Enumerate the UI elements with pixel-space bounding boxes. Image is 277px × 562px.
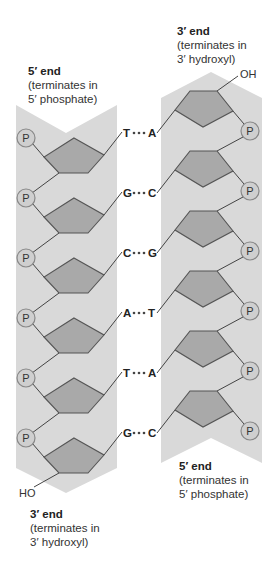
phosphate-label: P: [246, 365, 253, 377]
phosphate-label: P: [22, 312, 29, 324]
right-top-title: 3′ end: [177, 24, 247, 38]
left-bottom-title: 3′ end: [30, 507, 100, 521]
right-top-line2: 3′ hydroxyl): [177, 53, 235, 65]
hydrogen-bond-dot: [138, 312, 141, 315]
base-left: G: [123, 427, 132, 439]
phosphate-label: P: [22, 192, 29, 204]
right-bottom-line2: 5′ phosphate): [179, 488, 248, 500]
left-top-line2: 5′ phosphate): [28, 93, 97, 105]
base-left: G: [123, 187, 132, 199]
hydrogen-bond-dot: [143, 252, 146, 255]
terminal-ho: HO: [19, 487, 36, 499]
base-right: G: [148, 247, 157, 259]
left-bottom-line2: 3′ hydroxyl): [30, 536, 88, 548]
hydrogen-bond-dot: [133, 252, 136, 255]
hydrogen-bond-dot: [143, 372, 146, 375]
hydrogen-bond-dot: [143, 132, 146, 135]
left-top-line1: (terminates in: [28, 79, 98, 91]
hydrogen-bond-dot: [138, 252, 141, 255]
base-right: T: [148, 307, 155, 319]
hydrogen-bond-dot: [138, 132, 141, 135]
base-right: C: [148, 187, 156, 199]
base-right: C: [148, 427, 156, 439]
hydrogen-bond-dot: [133, 312, 136, 315]
hydrogen-bond-dot: [133, 192, 136, 195]
base-left: C: [123, 247, 131, 259]
phosphate-label: P: [246, 245, 253, 257]
phosphate-label: P: [22, 132, 29, 144]
left-top-label: 5′ end (terminates in 5′ phosphate): [28, 64, 98, 106]
base-right: A: [148, 127, 156, 139]
hydrogen-bond-dot: [138, 192, 141, 195]
hydrogen-bond-dot: [138, 372, 141, 375]
phosphate-label: P: [22, 372, 29, 384]
hydrogen-bond-dot: [143, 312, 146, 315]
right-top-label: 3′ end (terminates in 3′ hydroxyl): [177, 24, 247, 66]
right-bottom-label: 5′ end (terminates in 5′ phosphate): [179, 459, 249, 501]
left-bottom-line1: (terminates in: [30, 522, 100, 534]
phosphate-label: P: [246, 305, 253, 317]
terminal-oh: OH: [240, 68, 257, 80]
hydrogen-bond-dot: [133, 372, 136, 375]
left-top-title: 5′ end: [28, 64, 98, 78]
base-left: T: [123, 367, 130, 379]
phosphate-label: P: [246, 425, 253, 437]
phosphate-label: P: [246, 185, 253, 197]
hydrogen-bond-dot: [143, 432, 146, 435]
phosphate-label: P: [22, 432, 29, 444]
hydrogen-bond-dot: [133, 432, 136, 435]
base-pairs: TAGCCGATTAGC: [123, 127, 157, 439]
hydrogen-bond-dot: [133, 132, 136, 135]
phosphate-label: P: [22, 252, 29, 264]
right-bottom-title: 5′ end: [179, 459, 249, 473]
base-right: A: [148, 367, 156, 379]
right-top-line1: (terminates in: [177, 39, 247, 51]
hydrogen-bond-dot: [143, 192, 146, 195]
phosphate-label: P: [246, 125, 253, 137]
left-bottom-label: 3′ end (terminates in 3′ hydroxyl): [30, 507, 100, 549]
base-left: T: [123, 127, 130, 139]
hydrogen-bond-dot: [138, 432, 141, 435]
right-bottom-line1: (terminates in: [179, 474, 249, 486]
base-left: A: [123, 307, 131, 319]
